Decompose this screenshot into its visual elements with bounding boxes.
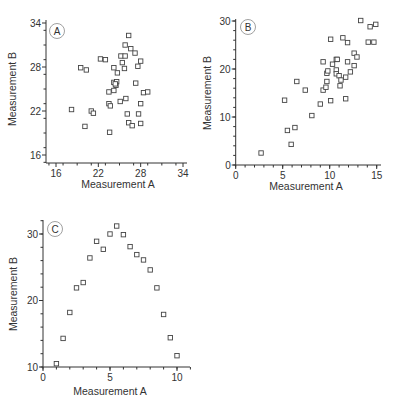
y-tick-label: 10 bbox=[27, 362, 39, 373]
data-point-square bbox=[115, 71, 119, 75]
y-tick-label: 30 bbox=[27, 229, 39, 240]
data-point-square bbox=[372, 40, 376, 44]
x-tick-label: 10 bbox=[171, 372, 183, 383]
x-tick-label: 34 bbox=[177, 168, 189, 179]
data-point-square bbox=[133, 51, 137, 55]
data-point-square bbox=[101, 247, 105, 251]
data-point-square bbox=[136, 112, 140, 116]
x-tick-label: 5 bbox=[107, 372, 113, 383]
data-point-square bbox=[108, 104, 112, 108]
data-point-square bbox=[328, 37, 332, 41]
y-tick-label: 34 bbox=[30, 18, 42, 29]
data-point-square bbox=[125, 112, 129, 116]
data-point-square bbox=[318, 102, 322, 106]
data-point-square bbox=[112, 88, 116, 92]
scatter-panel-c: 0510102030Measurement AMeasurement BC bbox=[7, 220, 190, 397]
data-point-square bbox=[337, 74, 341, 78]
data-point-square bbox=[69, 107, 73, 111]
x-tick-label: 0 bbox=[40, 372, 46, 383]
data-point-square bbox=[83, 124, 87, 128]
data-point-square bbox=[352, 63, 356, 67]
data-point-square bbox=[168, 336, 172, 340]
x-tick-label: 16 bbox=[50, 168, 62, 179]
data-point-square bbox=[88, 256, 92, 260]
panel-label: C bbox=[51, 224, 58, 235]
data-point-square bbox=[130, 123, 134, 127]
data-point-square bbox=[103, 57, 107, 61]
data-point-square bbox=[310, 113, 314, 117]
data-point-square bbox=[295, 79, 299, 83]
data-point-square bbox=[259, 151, 263, 155]
data-point-square bbox=[54, 361, 58, 365]
data-point-square bbox=[81, 280, 85, 284]
data-point-square bbox=[120, 60, 124, 64]
data-point-square bbox=[134, 81, 138, 85]
data-point-square bbox=[94, 239, 98, 243]
data-point-square bbox=[98, 57, 102, 61]
data-point-square bbox=[107, 90, 111, 94]
data-point-square bbox=[285, 128, 289, 132]
panel-label: A bbox=[54, 26, 61, 37]
data-point-square bbox=[136, 64, 140, 68]
data-point-square bbox=[135, 252, 139, 256]
data-point-square bbox=[339, 78, 343, 82]
data-point-square bbox=[355, 55, 359, 59]
data-point-square bbox=[107, 130, 111, 134]
data-point-square bbox=[330, 62, 334, 66]
data-point-square bbox=[129, 46, 133, 50]
y-axis-label: Measurement B bbox=[6, 52, 18, 126]
data-point-square bbox=[138, 121, 142, 125]
data-point-square bbox=[123, 54, 127, 58]
data-point-square bbox=[161, 312, 165, 316]
data-point-square bbox=[282, 98, 286, 102]
data-point-square bbox=[366, 40, 370, 44]
data-point-square bbox=[115, 224, 119, 228]
scatter-figure: 1622283416222834Measurement AMeasurement… bbox=[0, 0, 403, 404]
data-point-square bbox=[289, 142, 293, 146]
y-tick-label: 20 bbox=[27, 295, 39, 306]
data-point-square bbox=[112, 66, 116, 70]
data-point-square bbox=[345, 60, 349, 64]
data-point-square bbox=[146, 90, 150, 94]
x-tick-label: 0 bbox=[233, 170, 239, 181]
data-point-square bbox=[118, 99, 122, 103]
data-point-square bbox=[78, 66, 82, 70]
data-point-square bbox=[108, 232, 112, 236]
data-point-square bbox=[335, 57, 339, 61]
data-point-square bbox=[338, 84, 342, 88]
data-point-square bbox=[138, 101, 142, 105]
y-tick-label: 0 bbox=[225, 160, 231, 171]
data-point-square bbox=[341, 36, 345, 40]
scatter-panel-a: 1622283416222834Measurement AMeasurement… bbox=[6, 18, 189, 191]
data-point-square bbox=[368, 25, 372, 29]
x-axis-label: Measurement A bbox=[269, 180, 343, 192]
data-point-square bbox=[155, 286, 159, 290]
data-point-square bbox=[126, 33, 130, 37]
data-point-square bbox=[359, 18, 363, 22]
data-point-square bbox=[374, 22, 378, 26]
data-point-square bbox=[74, 286, 78, 290]
data-point-square bbox=[122, 66, 126, 70]
data-point-square bbox=[141, 90, 145, 94]
data-point-square bbox=[128, 244, 132, 248]
data-point-square bbox=[124, 96, 128, 100]
data-point-square bbox=[84, 68, 88, 72]
data-point-square bbox=[113, 82, 117, 86]
data-point-square bbox=[175, 353, 179, 357]
y-tick-label: 16 bbox=[30, 150, 42, 161]
data-point-square bbox=[343, 97, 347, 101]
data-point-square bbox=[348, 70, 352, 74]
y-tick-label: 10 bbox=[220, 112, 232, 123]
data-point-square bbox=[148, 268, 152, 272]
x-axis-label: Measurement A bbox=[81, 178, 155, 190]
data-point-square bbox=[68, 310, 72, 314]
data-point-square bbox=[328, 98, 332, 102]
data-point-square bbox=[343, 75, 347, 79]
y-axis-label: Measurement B bbox=[201, 56, 213, 130]
data-point-square bbox=[119, 54, 123, 58]
y-tick-label: 30 bbox=[220, 16, 232, 27]
data-point-square bbox=[324, 85, 328, 89]
data-point-square bbox=[321, 60, 325, 64]
data-point-square bbox=[326, 69, 330, 73]
data-point-square bbox=[123, 43, 127, 47]
